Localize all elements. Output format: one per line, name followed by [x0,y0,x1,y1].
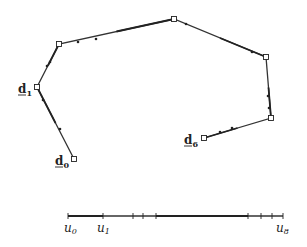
polygon-tick [77,41,80,44]
polygon-tick [42,99,45,102]
polygon-tick [268,107,271,110]
edge-emphasis [37,87,56,123]
knot-label-u0: u0 [64,221,77,236]
polygon-tick [267,95,270,98]
polygon-tick [185,23,188,26]
polygon-tick [49,61,52,64]
control-polygon-diagram: d0d1d6 u0u1u8 [0,0,307,247]
knot-label-u1: u1 [97,221,110,236]
control-points [35,17,274,162]
edge-emphasis [220,38,266,57]
polygon-tick [231,127,234,130]
control-point-d3 [172,17,177,22]
control-polygon [37,19,271,159]
label-d0: d0 [55,154,69,170]
control-point-d0 [72,157,77,162]
label-d1: d1 [18,82,32,98]
polygon-tick [59,128,62,131]
polygon-tick [46,65,49,68]
knot-label-u8: u8 [276,221,289,236]
polygon-edges [37,19,271,159]
control-point-d5 [269,116,274,121]
edge-emphasis [269,88,272,119]
control-point-d1 [35,85,40,90]
control-point-d4 [264,55,269,60]
polygon-tick [251,51,254,54]
control-point-d6 [202,136,207,141]
polygon-tick [95,38,98,41]
edge-emphasis [117,19,175,32]
control-point-labels: d0d1d6 [18,82,198,170]
control-point-d2 [57,42,62,47]
polygon-tick [219,131,222,134]
polygon-ticks [42,23,271,134]
knot-axis: u0u1u8 [64,213,289,236]
label-d6: d6 [184,133,198,149]
